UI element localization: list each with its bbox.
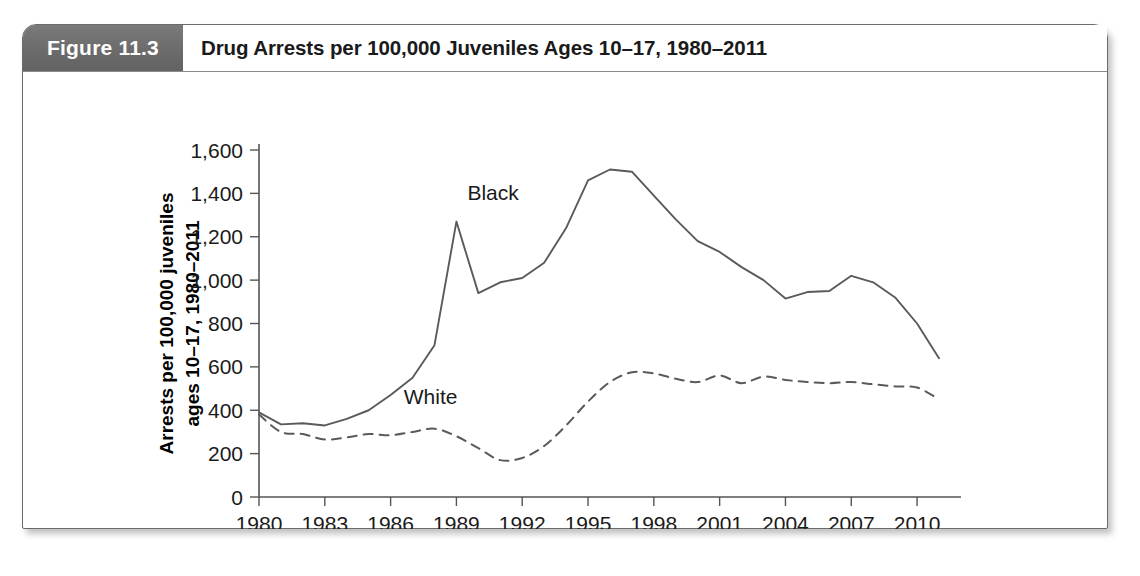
figure-frame: Figure 11.3 Drug Arrests per 100,000 Juv… xyxy=(22,24,1108,529)
series-label-black: Black xyxy=(467,181,519,204)
figure-header: Figure 11.3 Drug Arrests per 100,000 Juv… xyxy=(23,25,1107,71)
y-tick-label: 400 xyxy=(208,399,243,422)
x-tick-label: 1986 xyxy=(367,512,414,529)
series-line-white xyxy=(259,372,939,461)
x-tick-label: 1995 xyxy=(565,512,612,529)
y-tick-label: 1,400 xyxy=(190,182,243,205)
y-tick-label: 0 xyxy=(231,486,243,509)
x-tick-label: 2001 xyxy=(696,512,743,529)
y-axis-title-line: Arrests per 100,000 juveniles xyxy=(156,193,177,455)
x-tick-label: 1980 xyxy=(236,512,283,529)
y-tick-label: 800 xyxy=(208,312,243,335)
y-tick-label: 200 xyxy=(208,442,243,465)
x-tick-label: 1983 xyxy=(301,512,348,529)
series-line-black xyxy=(259,170,939,426)
x-tick-label: 1989 xyxy=(433,512,480,529)
x-tick-label: 1992 xyxy=(499,512,546,529)
x-tick-label: 2004 xyxy=(762,512,809,529)
figure-title: Drug Arrests per 100,000 Juveniles Ages … xyxy=(183,25,1107,71)
y-tick-label: 1,000 xyxy=(190,269,243,292)
line-chart: Arrests per 100,000 juvenilesages 10–17,… xyxy=(23,72,1107,529)
y-axis-title-line: ages 10–17, 1980–2011 xyxy=(182,220,203,426)
series-inline-labels: BlackWhite xyxy=(404,181,519,408)
y-tick-label: 600 xyxy=(208,355,243,378)
y-tick-label: 1,200 xyxy=(190,225,243,248)
chart-area: Arrests per 100,000 juvenilesages 10–17,… xyxy=(23,72,1107,529)
x-tick-label: 2010 xyxy=(894,512,941,529)
figure-page: Figure 11.3 Drug Arrests per 100,000 Juv… xyxy=(0,0,1140,576)
x-tick-label: 2007 xyxy=(828,512,875,529)
x-axis-ticks: 1980198319861989199219951998200120042007… xyxy=(236,497,941,529)
series-label-white: White xyxy=(404,385,458,408)
figure-number-tag: Figure 11.3 xyxy=(23,25,183,71)
x-tick-label: 1998 xyxy=(630,512,677,529)
y-tick-label: 1,600 xyxy=(190,139,243,162)
